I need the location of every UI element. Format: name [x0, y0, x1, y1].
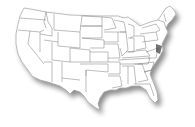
states-group	[16, 6, 176, 110]
us-states-outline-map	[0, 0, 195, 127]
